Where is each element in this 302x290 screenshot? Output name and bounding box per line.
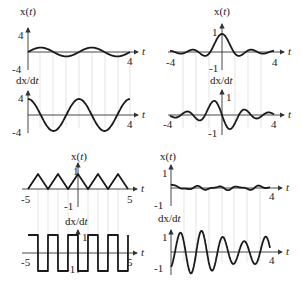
t-axis-label: t: [286, 181, 290, 193]
t-tick-start: -4: [163, 118, 173, 130]
t-tick-start: -4: [166, 56, 176, 68]
t-axis-label: t: [141, 182, 145, 194]
y-tick-top: 1: [162, 167, 168, 179]
dxdt-axis-title: dx/dt: [65, 215, 89, 227]
t-axis-label: t: [288, 45, 292, 57]
xt-axis-title: x(t): [214, 5, 230, 18]
figure-canvas: x(t) t 4 -4 4 dx/dt t 4 -4 4 x(t) t 1 -1…: [0, 0, 302, 290]
t-axis-label: t: [286, 245, 290, 257]
t-axis-label: t: [142, 108, 146, 120]
x-curve: [171, 184, 270, 190]
y-tick-bottom: -1: [64, 200, 73, 212]
panel-bottom-left: x(t) t 1 -1 -5 5 dx/dt t 1 -1 -5 5: [21, 150, 145, 275]
t-tick-end: 4: [269, 254, 275, 266]
t-tick-end: 4: [272, 56, 278, 68]
dxdt-axis-title: dx/dt: [210, 74, 234, 86]
t-tick-start: -5: [21, 256, 31, 268]
xt-axis-title: x(t): [160, 150, 176, 163]
y-tick-top: 1: [226, 91, 232, 103]
t-axis-label: t: [142, 45, 146, 57]
y-tick-bottom: -1: [154, 199, 163, 211]
y-tick-top: 4: [18, 29, 24, 41]
t-axis-label: t: [288, 108, 292, 120]
dxdt-axis-title: dx/dt: [158, 212, 182, 224]
y-tick-top: 4: [18, 92, 24, 104]
t-tick-end: 4: [271, 118, 277, 130]
t-axis-label: t: [141, 246, 145, 258]
y-tick-bottom: -1: [208, 127, 217, 139]
xt-axis-title: x(t): [71, 150, 87, 163]
t-tick-end: 5: [127, 193, 133, 205]
t-tick-end: 4: [269, 190, 275, 202]
t-tick-end: 4: [127, 55, 133, 67]
y-tick-bottom: -1: [209, 62, 218, 74]
y-tick-bottom: -4: [12, 126, 22, 138]
t-tick-start: -5: [21, 193, 31, 205]
panel-top-right: x(t) t 1 -1 -4 4 dx/dt t 1 -1 -4 4: [163, 5, 292, 139]
y-tick-top: 1: [162, 231, 168, 243]
y-tick-top: 1: [212, 26, 218, 38]
t-tick-end: 4: [127, 118, 133, 130]
dxdt-axis-title: dx/dt: [16, 74, 40, 86]
xt-axis-title: x(t): [20, 5, 36, 18]
y-tick-bottom: -1: [154, 262, 163, 274]
y-tick-top: 1: [82, 231, 88, 243]
